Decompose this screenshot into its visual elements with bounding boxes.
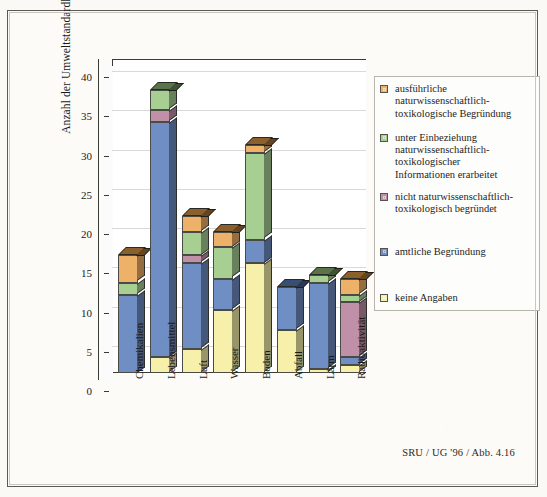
y-axis-tick — [104, 156, 109, 157]
bar-segment[interactable] — [340, 279, 360, 295]
bar-segment[interactable] — [150, 110, 170, 122]
x-axis-tick-label: Abfall — [293, 351, 304, 379]
y-axis-tick-label: 40 — [81, 72, 92, 83]
bar-top-face — [340, 271, 368, 279]
y-axis-tick-label: 5 — [87, 346, 93, 357]
legend-item[interactable]: nicht naturwissenschaftlich-toxikologisc… — [380, 191, 534, 216]
y-axis-tick — [104, 313, 109, 314]
bar-top-side — [358, 272, 374, 280]
bar-top-side — [327, 268, 343, 276]
bar-segment[interactable] — [309, 275, 329, 283]
y-axis-tick-label: 10 — [81, 307, 92, 318]
legend-swatch — [380, 193, 388, 201]
legend-item[interactable]: keine Angaben — [380, 292, 534, 304]
bar-top-face — [118, 247, 146, 255]
y-axis-tick — [104, 352, 109, 353]
y-axis-tick-label: 30 — [81, 150, 92, 161]
x-axis-tick-label: Luft — [198, 360, 209, 379]
bar-segment[interactable] — [213, 247, 233, 278]
y-axis-tick-label: 35 — [81, 111, 92, 122]
y-axis-tick — [104, 391, 109, 392]
legend-label: keine Angaben — [395, 292, 534, 304]
legend-label-line: keine Angaben — [395, 292, 534, 304]
legend-label-line: naturwissenschaftlich- — [395, 144, 534, 156]
y-axis-tick — [104, 234, 109, 235]
y-axis-tick — [104, 273, 109, 274]
x-axis-tick-label: Lebensmittel — [166, 322, 177, 379]
legend-label-line: unter Einbeziehung — [395, 132, 534, 144]
legend-label: nicht naturwissenschaftlich-toxikologisc… — [395, 191, 534, 216]
legend-label: amtliche Begründung — [395, 246, 534, 258]
chart-axes: 0510152025303540 ChemikalienLebensmittel… — [98, 59, 366, 385]
legend-label-line: toxikologische Begründung — [395, 108, 534, 120]
bar-segment[interactable] — [277, 287, 297, 330]
bar-top-face — [309, 267, 337, 275]
x-axis-tick-label: Boden — [261, 350, 272, 379]
legend-label: unter Einbeziehungnaturwissenschaftlich-… — [395, 132, 534, 181]
bar-segment-side — [264, 148, 272, 238]
bar-segment[interactable] — [118, 283, 138, 295]
bar-segment[interactable] — [213, 232, 233, 248]
bar-top-face — [213, 224, 241, 232]
legend-label-line: toxikologisch begründet — [395, 203, 534, 215]
bar-top-side — [263, 138, 279, 146]
bar-segment-side — [232, 243, 240, 278]
bar-segment[interactable] — [182, 255, 202, 263]
legend-label-line: ausführliche — [395, 83, 534, 95]
bar-top-face — [182, 208, 210, 216]
bar-top-side — [168, 83, 184, 91]
y-axis-tick-label: 20 — [81, 229, 92, 240]
bar-segment[interactable] — [150, 90, 170, 110]
y-axis-tick-label: 15 — [81, 268, 92, 279]
legend-label-line: naturwissenschaftlich- — [395, 95, 534, 107]
legend-label-line: amtliche Begründung — [395, 246, 534, 258]
bar-segment[interactable] — [340, 295, 360, 303]
bar-top-face — [150, 82, 178, 90]
legend-swatch — [380, 85, 388, 93]
legend-label-line: Informationen erarbeitet — [395, 169, 534, 181]
legend-label-line: toxikologischer — [395, 156, 534, 168]
legend-item[interactable]: unter Einbeziehungnaturwissenschaftlich-… — [380, 132, 534, 181]
y-axis-tick — [104, 77, 109, 78]
bar-segment[interactable] — [182, 216, 202, 232]
bar-segment-side — [201, 258, 209, 348]
y-axis-tick-label: 25 — [81, 189, 92, 200]
chart-legend: ausführlichenaturwissenschaftlich-toxiko… — [374, 76, 540, 311]
y-axis-title: Anzahl der Umweltstandardlisten — [60, 0, 72, 155]
legend-swatch — [380, 294, 388, 302]
bar-segment[interactable] — [182, 232, 202, 256]
x-axis-tick-label: Chemikalien — [134, 323, 145, 379]
plot-left-wall — [98, 66, 113, 380]
legend-item[interactable]: ausführlichenaturwissenschaftlich-toxiko… — [380, 83, 534, 120]
bar-group: ChemikalienLebensmittelLuftWasserBodenAb… — [112, 59, 366, 373]
bar-top-face — [277, 279, 305, 287]
bar-segment[interactable] — [213, 279, 233, 310]
x-axis-tick-label: Radioaktivität — [356, 317, 367, 379]
y-axis-tick-label: 0 — [87, 386, 93, 397]
figure-frame: Anzahl der Umweltstandardlisten 05101520… — [7, 10, 538, 487]
legend-label-line: nicht naturwissenschaftlich- — [395, 191, 534, 203]
legend-label: ausführlichenaturwissenschaftlich-toxiko… — [395, 83, 534, 120]
bar-top-side — [200, 209, 216, 217]
bar-segment[interactable] — [245, 240, 265, 264]
bar-segment[interactable] — [245, 153, 265, 239]
bar-segment[interactable] — [118, 255, 138, 282]
bar-segment-side — [169, 117, 177, 356]
bar-segment-side — [232, 274, 240, 309]
figure-page: Anzahl der Umweltstandardlisten 05101520… — [0, 0, 547, 497]
y-axis-tick — [104, 116, 109, 117]
figure-caption: SRU / UG '96 / Abb. 4.16 — [402, 447, 515, 458]
bar-segment-side — [296, 282, 304, 329]
legend-swatch — [380, 134, 388, 142]
bar-segment[interactable] — [182, 263, 202, 349]
bar-top-face — [245, 137, 273, 145]
chart-plot-area: Anzahl der Umweltstandardlisten 05101520… — [68, 59, 368, 399]
y-axis-tick — [104, 195, 109, 196]
legend-item[interactable]: amtliche Begründung — [380, 246, 534, 258]
legend-swatch — [380, 248, 388, 256]
x-axis-tick-label: Lärm — [325, 355, 336, 379]
bar-segment[interactable] — [245, 145, 265, 153]
x-axis-tick-label: Wasser — [229, 348, 240, 380]
